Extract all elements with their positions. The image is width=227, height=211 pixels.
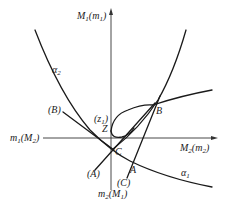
curve-rising: [113, 30, 186, 149]
line-B-label: (B): [48, 104, 61, 116]
vertical-axis-arrow-icon: [109, 8, 113, 15]
vertical-top-label: M1(m1): [76, 10, 107, 23]
line-C-label: (C): [117, 177, 131, 189]
diagram-canvas: M1(m1) m2(M1) m1(M2) M2(m2) α2 α1 B C A …: [0, 0, 227, 211]
horizontal-right-label: M2(m2): [179, 142, 210, 155]
vertical-bottom-label: m2(M1): [98, 188, 128, 201]
alpha1-label: α1: [181, 167, 190, 180]
horizontal-left-label: m1(M2): [10, 132, 40, 145]
curve-alpha: [35, 30, 212, 187]
alpha2-label: α2: [52, 64, 61, 77]
point-B-label: B: [156, 105, 162, 116]
line-A-label: (A): [87, 168, 100, 180]
horizontal-axis-arrow-icon: [211, 136, 218, 140]
point-C-label: C: [115, 146, 122, 157]
point-A-label: A: [129, 164, 137, 175]
